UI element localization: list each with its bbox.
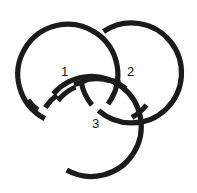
ring-2-arc-inner-upper	[82, 84, 93, 106]
ring-label-2: 2	[127, 65, 134, 78]
interlocking-rings-diagram: 1 2 3	[0, 0, 197, 193]
ring-label-3: 3	[92, 117, 99, 130]
rings-svg-canvas	[0, 0, 197, 193]
ring-3-over-ring-1	[45, 95, 57, 108]
ring-label-1: 1	[61, 65, 68, 78]
ring-3-over-ring-2	[104, 79, 120, 83]
